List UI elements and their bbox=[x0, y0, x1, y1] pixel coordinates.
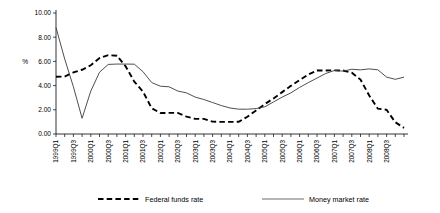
x-axis-label: 2004Q3 bbox=[244, 140, 252, 163]
x-axis-label: 1999Q1 bbox=[52, 140, 60, 163]
y-axis-label: 2.00 bbox=[38, 106, 51, 113]
x-axis-label: 2002Q3 bbox=[174, 140, 182, 163]
y-axis-label: 0.00 bbox=[38, 130, 51, 137]
y-axis-label: 6.00 bbox=[38, 58, 51, 65]
legend-label: Federal funds rate bbox=[145, 195, 203, 204]
y-axis-label: 4.00 bbox=[38, 82, 51, 89]
x-axis-label: 2006Q1 bbox=[296, 140, 304, 163]
series-federal-funds-rate bbox=[56, 55, 404, 128]
x-axis-label: 2001Q3 bbox=[139, 140, 147, 163]
x-axis-label: 1999Q3 bbox=[70, 140, 78, 163]
x-axis-label: 2003Q3 bbox=[209, 140, 217, 163]
chart-canvas: 0.002.004.006.008.0010.00%1999Q11999Q320… bbox=[0, 0, 440, 213]
x-axis-label: 2002Q1 bbox=[157, 140, 165, 163]
x-axis-label: 2006Q3 bbox=[313, 140, 321, 163]
x-axis-label: 2007Q1 bbox=[331, 140, 339, 163]
y-axis-title: % bbox=[22, 58, 28, 65]
x-axis-label: 2005Q1 bbox=[261, 140, 269, 163]
line-chart: 0.002.004.006.008.0010.00%1999Q11999Q320… bbox=[0, 0, 440, 213]
x-axis-label: 2003Q1 bbox=[192, 140, 200, 163]
x-axis-label: 2000Q3 bbox=[105, 140, 113, 163]
x-axis-label: 2005Q3 bbox=[279, 140, 287, 163]
x-axis-label: 2007Q3 bbox=[348, 140, 356, 163]
x-axis-label: 2004Q1 bbox=[226, 140, 234, 163]
x-axis-label: 2008Q1 bbox=[366, 140, 374, 163]
y-axis-label: 8.00 bbox=[38, 34, 51, 41]
x-axis-label: 2008Q3 bbox=[383, 140, 391, 163]
legend-label: Money market rate bbox=[309, 195, 369, 204]
chart-figure: 0.002.004.006.008.0010.00%1999Q11999Q320… bbox=[0, 0, 440, 213]
y-axis-label: 10.00 bbox=[34, 9, 51, 16]
x-axis-label: 2001Q1 bbox=[122, 140, 130, 163]
x-axis-label: 2000Q1 bbox=[87, 140, 95, 163]
